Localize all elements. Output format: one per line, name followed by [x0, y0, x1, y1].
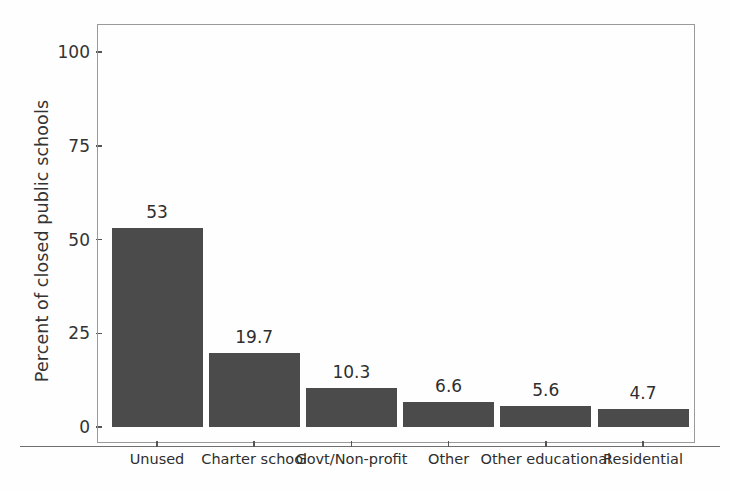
x-axis-tick-mark: [156, 441, 158, 447]
x-axis-tick-mark: [642, 441, 644, 447]
x-axis-tick-mark: [448, 441, 450, 447]
bar: [403, 402, 494, 427]
bar: [209, 353, 300, 427]
bar: [112, 228, 203, 427]
x-axis-tick-label: Residential: [563, 452, 723, 467]
bar-value-label: 10.3: [311, 364, 391, 381]
x-axis-tick-mark: [545, 441, 547, 447]
bar: [500, 406, 591, 427]
bars-layer: 5319.710.36.65.64.7: [0, 0, 730, 491]
bar: [598, 409, 689, 427]
bar-value-label: 19.7: [214, 329, 294, 346]
x-axis-tick-mark: [253, 441, 255, 447]
bar-value-label: 5.6: [506, 382, 586, 399]
x-axis-tick-mark: [351, 441, 353, 447]
x-axis-line: [20, 446, 720, 447]
bar: [306, 388, 397, 427]
bar-chart: Percent of closed public schools 0255075…: [0, 0, 730, 491]
bar-value-label: 4.7: [603, 385, 683, 402]
bar-value-label: 53: [117, 204, 197, 221]
bar-value-label: 6.6: [409, 378, 489, 395]
